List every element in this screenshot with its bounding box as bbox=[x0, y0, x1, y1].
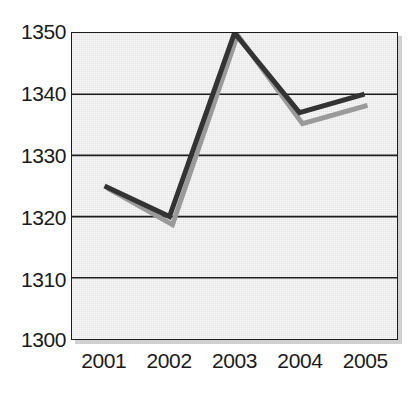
plot-area bbox=[71, 32, 398, 340]
x-tick-label-2003: 2003 bbox=[202, 349, 267, 379]
y-tick-label-1340: 1340 bbox=[2, 83, 66, 104]
gridline-group bbox=[72, 94, 397, 278]
y-tick-label-1320: 1320 bbox=[2, 207, 66, 228]
y-tick-label-1350: 1350 bbox=[2, 21, 66, 42]
y-tick-label-1330: 1330 bbox=[2, 145, 66, 166]
y-tick-label-1310: 1310 bbox=[2, 269, 66, 290]
series-line-dark bbox=[105, 33, 365, 217]
x-tick-label-2001: 2001 bbox=[71, 349, 136, 379]
x-tick-label-2005: 2005 bbox=[333, 349, 398, 379]
y-axis-tick-labels: 1350 1340 1330 1320 1310 1300 bbox=[0, 0, 66, 393]
polyline-gray-series bbox=[107, 35, 367, 225]
series-line-gray bbox=[107, 35, 367, 225]
plot-svg bbox=[72, 33, 397, 339]
line-chart-figure: 1350 1340 1330 1320 1310 1300 2001 2002 … bbox=[0, 0, 420, 393]
polyline-dark-series bbox=[105, 33, 365, 217]
y-tick-label-1300: 1300 bbox=[2, 329, 66, 350]
x-tick-label-2004: 2004 bbox=[267, 349, 332, 379]
x-axis-tick-labels: 2001 2002 2003 2004 2005 bbox=[71, 349, 398, 379]
x-tick-label-2002: 2002 bbox=[136, 349, 201, 379]
